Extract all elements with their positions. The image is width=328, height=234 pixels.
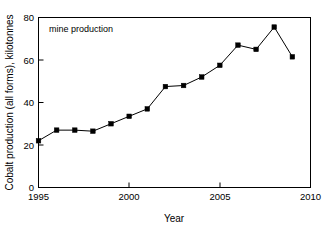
line-chart: 0 20 40 60 80 1995 2000 2005 2010 Year C… <box>0 0 328 234</box>
y-axis-title: Cobalt production (all forms), kilotonne… <box>4 14 15 190</box>
data-point-marker <box>54 128 59 133</box>
x-tick-label-2005: 2005 <box>209 191 230 202</box>
data-point-marker <box>163 84 168 89</box>
y-axis-ticks <box>39 18 44 188</box>
data-point-marker <box>218 63 223 68</box>
data-point-marker <box>127 114 132 119</box>
x-axis-ticks <box>39 183 311 188</box>
x-axis-title: Year <box>164 213 185 224</box>
data-point-marker <box>254 47 259 52</box>
data-point-marker <box>91 129 96 134</box>
data-series-layer <box>36 25 294 143</box>
data-point-marker <box>272 25 277 30</box>
y-tick-label-60: 60 <box>23 55 34 66</box>
data-point-marker <box>109 121 114 126</box>
plot-frame <box>39 18 311 188</box>
y-tick-label-80: 80 <box>23 12 34 23</box>
x-axis-tick-labels: 1995 2000 2005 2010 <box>28 191 321 202</box>
data-point-marker <box>36 138 41 143</box>
data-point-marker <box>72 128 77 133</box>
data-point-marker <box>236 43 241 48</box>
data-point-marker <box>199 75 204 80</box>
y-axis-tick-labels: 0 20 40 60 80 <box>23 12 34 193</box>
series-annotation-label: mine production <box>49 24 113 34</box>
x-tick-label-1995: 1995 <box>28 191 49 202</box>
series-line-0 <box>39 27 293 141</box>
data-point-marker <box>181 83 186 88</box>
data-point-marker <box>290 55 295 60</box>
y-tick-label-20: 20 <box>23 140 34 151</box>
data-point-marker <box>145 107 150 112</box>
x-tick-label-2010: 2010 <box>300 191 321 202</box>
x-tick-label-2000: 2000 <box>118 191 139 202</box>
chart-figure: 0 20 40 60 80 1995 2000 2005 2010 Year C… <box>0 0 328 234</box>
y-tick-label-40: 40 <box>23 97 34 108</box>
